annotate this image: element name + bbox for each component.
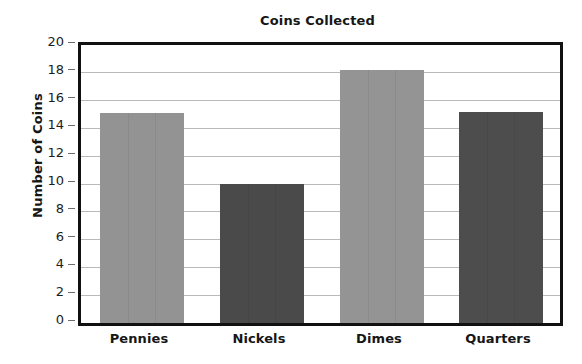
bar-nickels[interactable] (220, 184, 304, 323)
x-axis-label-quarters: Quarters (436, 331, 560, 346)
x-axis-label-dimes: Dimes (317, 331, 441, 346)
x-axis-label-pennies: Pennies (77, 331, 201, 346)
bar-texture-streak (487, 112, 488, 323)
plot-area (78, 42, 563, 326)
gridline (81, 72, 560, 73)
bar-texture-streak (514, 112, 515, 323)
y-tick-label: 20 (22, 35, 64, 48)
bar-chart: Coins Collected Number of Coins 02468101… (0, 0, 582, 364)
y-tick-label: 18 (22, 63, 64, 76)
y-tick-label: 4 (22, 257, 64, 270)
y-tick-label: 8 (22, 202, 64, 215)
y-tick-mark (68, 181, 75, 182)
y-tick-mark (68, 42, 75, 43)
bar-texture-streak (155, 113, 156, 323)
bar-texture-streak (395, 70, 396, 323)
y-tick-mark (68, 125, 75, 126)
y-tick-label: 0 (22, 313, 64, 326)
y-tick-mark (68, 292, 75, 293)
bar-quarters[interactable] (459, 112, 543, 323)
gridline (81, 100, 560, 101)
y-tick-label: 6 (22, 230, 64, 243)
chart-title: Coins Collected (78, 13, 557, 29)
y-tick-label: 14 (22, 118, 64, 131)
y-tick-label: 12 (22, 146, 64, 159)
y-tick-label: 10 (22, 174, 64, 187)
bar-texture-streak (128, 113, 129, 323)
bar-texture-streak (368, 70, 369, 323)
y-tick-mark (68, 236, 75, 237)
y-tick-mark (68, 97, 75, 98)
y-tick-mark (68, 264, 75, 265)
x-axis-label-nickels: Nickels (197, 331, 321, 346)
bar-texture-streak (248, 184, 249, 323)
y-tick-label: 2 (22, 285, 64, 298)
y-tick-mark (68, 320, 75, 321)
y-tick-label: 16 (22, 91, 64, 104)
bar-texture-streak (275, 184, 276, 323)
y-tick-mark (68, 208, 75, 209)
bar-pennies[interactable] (100, 113, 184, 323)
y-tick-mark (68, 153, 75, 154)
y-tick-mark (68, 69, 75, 70)
bar-dimes[interactable] (340, 70, 424, 323)
plot-inner (81, 45, 560, 323)
